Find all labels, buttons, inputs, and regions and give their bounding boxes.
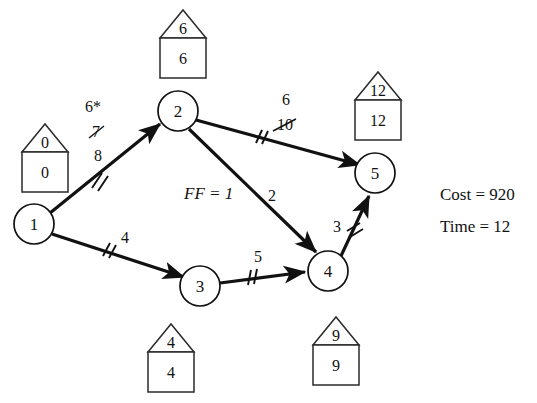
edge-1-to-3: 4 [52,229,184,277]
edge-3-to-4: 5 [220,248,305,285]
network-diagram: 6* 7 8 4 6 10 2 [0,0,537,403]
house-marker-node-2-bottom-value: 6 [179,50,187,67]
house-marker-node-3-top-value: 4 [167,334,175,351]
house-marker-node-4-top-value: 9 [332,327,340,344]
house-marker-node-1-top-value: 0 [41,134,49,151]
house-marker-node-4-bottom-value: 9 [332,357,340,374]
house-marker-node-1: 0 0 [22,124,68,192]
node-1-label: 1 [30,215,39,234]
node-4-label: 4 [324,262,333,281]
edge-3-to-4-line [220,272,305,283]
node-5-label: 5 [371,164,380,183]
edge-1-to-2-label-a: 6* [85,98,101,115]
house-marker-node-5-bottom-value: 12 [370,112,386,129]
edge-4-to-5: 3 [333,196,369,256]
free-float-annotation: FF = 1 [183,184,233,203]
house-marker-node-5: 12 12 [355,72,401,140]
house-marker-node-5-top-value: 12 [370,82,386,99]
node-2[interactable]: 2 [158,91,198,131]
network-diagram-canvas: 6* 7 8 4 6 10 2 [0,0,537,403]
summary-cost-line: Cost = 920 [440,185,515,204]
node-5[interactable]: 5 [355,153,395,193]
edge-2-to-5-label-a: 6 [282,91,290,108]
edge-3-to-4-label-a: 5 [254,248,262,265]
house-marker-node-3: 4 4 [148,324,194,392]
edge-4-to-5-label-a: 3 [333,218,341,235]
node-2-label: 2 [174,102,183,121]
node-4[interactable]: 4 [308,251,348,291]
edge-1-to-3-line [52,234,184,277]
edge-2-to-4-label-a: 2 [268,187,276,204]
edge-1-to-2-label-c: 8 [94,147,102,164]
edge-2-to-5: 6 10 [196,91,360,165]
node-1[interactable]: 1 [14,204,54,244]
edge-3-to-4-tick-b [254,269,257,284]
house-marker-node-2: 6 6 [160,10,206,78]
house-marker-node-1-bottom-value: 0 [41,164,49,181]
house-marker-node-2-top-value: 6 [179,20,187,37]
node-3[interactable]: 3 [180,266,220,306]
summary-time-line: Time = 12 [440,217,510,236]
house-marker-node-4: 9 9 [313,317,359,385]
node-3-label: 3 [196,277,205,296]
house-marker-node-3-bottom-value: 4 [167,364,175,381]
edge-1-to-3-label-a: 4 [121,229,129,246]
